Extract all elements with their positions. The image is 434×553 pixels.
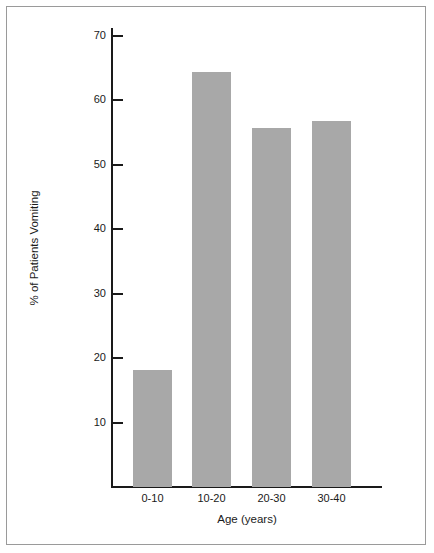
y-axis-tick (113, 35, 123, 37)
y-axis-tick (113, 99, 123, 101)
y-axis-tick-label: 30 (82, 287, 106, 299)
y-axis-tick (113, 293, 123, 295)
bar (133, 370, 172, 487)
bar (252, 128, 291, 487)
x-axis-tick-label: 20-30 (242, 492, 302, 504)
y-axis-tick (113, 422, 123, 424)
y-axis-title: % of Patients Vomiting (28, 168, 40, 328)
y-axis-tick (113, 228, 123, 230)
y-axis-tick (113, 164, 123, 166)
y-axis-tick-label: 50 (82, 158, 106, 170)
y-axis-line (111, 28, 113, 488)
x-axis-tick-label: 30-40 (302, 492, 362, 504)
y-axis-tick-label: 20 (82, 351, 106, 363)
y-axis-tick-label: 10 (82, 416, 106, 428)
y-axis-tick-label: 70 (82, 29, 106, 41)
x-axis-tick-label: 10-20 (182, 492, 242, 504)
x-axis-tick-label: 0-10 (123, 492, 183, 504)
figure-canvas: 10203040506070 0-1010-2020-3030-40 Age (… (0, 0, 434, 553)
y-axis-tick (113, 357, 123, 359)
bar (312, 121, 351, 487)
y-axis-tick-label: 40 (82, 222, 106, 234)
y-axis-tick-label: 60 (82, 93, 106, 105)
x-axis-title: Age (years) (112, 513, 382, 525)
bar (192, 72, 231, 487)
